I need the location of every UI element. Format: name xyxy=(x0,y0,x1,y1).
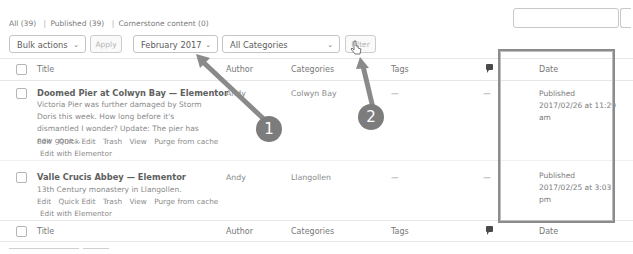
post-categories[interactable]: Llangollen xyxy=(291,173,331,182)
post-tags: — xyxy=(391,89,399,98)
post-title-link[interactable]: Doomed Pier at Colwyn Bay — Elementor xyxy=(37,88,228,98)
apply-button[interactable]: Apply xyxy=(90,35,122,53)
purge-cache-link[interactable]: Purge from cache xyxy=(154,197,218,206)
month-filter-select[interactable]: February 2017 ⌄ xyxy=(133,35,218,53)
post-comments: — xyxy=(483,89,491,98)
comment-icon[interactable] xyxy=(486,226,493,232)
row-checkbox[interactable] xyxy=(16,88,27,99)
post-tags: — xyxy=(391,173,399,182)
view-separator: | xyxy=(43,19,46,28)
search-posts-input[interactable] xyxy=(513,8,619,28)
select-all-checkbox[interactable] xyxy=(16,64,27,75)
bulk-actions-select-bottom[interactable] xyxy=(9,248,79,249)
view-link[interactable]: View xyxy=(130,197,147,206)
quick-edit-link[interactable]: Quick Edit xyxy=(58,197,95,206)
column-title[interactable]: Title xyxy=(37,65,54,74)
comment-icon[interactable] xyxy=(486,64,493,70)
post-categories[interactable]: Colwyn Bay xyxy=(291,89,337,98)
column-author: Author xyxy=(226,65,253,74)
edit-with-elementor-link[interactable]: Edit with Elementor xyxy=(40,149,112,158)
row-checkbox[interactable] xyxy=(16,172,27,183)
bulk-actions-label: Bulk actions xyxy=(17,40,68,50)
date-column-highlight xyxy=(498,49,615,223)
view-all-link[interactable]: All (39) xyxy=(9,19,36,28)
chevron-down-icon: ⌄ xyxy=(73,36,79,54)
column-title-footer[interactable]: Title xyxy=(37,227,54,236)
table-bottom-border xyxy=(0,241,633,242)
month-filter-label: February 2017 xyxy=(141,40,202,50)
row-actions: Edit Quick Edit Trash View Purge from ca… xyxy=(37,136,227,159)
column-date-footer[interactable]: Date xyxy=(539,227,558,236)
step-badge-1: 1 xyxy=(256,116,282,142)
arrow-to-filter-button xyxy=(363,66,373,108)
column-tags: Tags xyxy=(391,65,409,74)
search-posts-button[interactable] xyxy=(620,8,631,28)
arrowhead-1 xyxy=(196,54,210,68)
select-all-checkbox-footer[interactable] xyxy=(16,226,27,237)
step-badge-2: 2 xyxy=(358,104,384,130)
post-status-views: All (39) | Published (39) | Cornerstone … xyxy=(9,19,211,28)
post-author[interactable]: Andy xyxy=(226,173,246,182)
edit-link[interactable]: Edit xyxy=(37,137,51,146)
view-link[interactable]: View xyxy=(130,137,147,146)
post-excerpt: 13th Century monastery in Llangollen. xyxy=(37,184,215,196)
column-categories: Categories xyxy=(291,65,334,74)
view-cornerstone-link[interactable]: Cornerstone content (0) xyxy=(119,19,209,28)
category-filter-label: All Categories xyxy=(230,40,288,50)
chevron-down-icon: ⌄ xyxy=(327,36,333,54)
chevron-down-icon: ⌄ xyxy=(205,36,211,54)
column-tags-footer: Tags xyxy=(391,227,409,236)
column-categories-footer: Categories xyxy=(291,227,334,236)
view-separator: | xyxy=(112,19,115,28)
trash-link[interactable]: Trash xyxy=(103,137,122,146)
bulk-actions-select[interactable]: Bulk actions ⌄ xyxy=(9,35,86,53)
edit-link[interactable]: Edit xyxy=(37,197,51,206)
apply-button-bottom[interactable] xyxy=(83,248,109,249)
edit-with-elementor-link[interactable]: Edit with Elementor xyxy=(40,209,112,218)
category-filter-select[interactable]: All Categories ⌄ xyxy=(222,35,340,53)
row-actions: Edit Quick Edit Trash View Purge from ca… xyxy=(37,196,227,219)
trash-link[interactable]: Trash xyxy=(103,197,122,206)
purge-cache-link[interactable]: Purge from cache xyxy=(154,137,218,146)
post-author[interactable]: Andy xyxy=(226,89,246,98)
view-published-link[interactable]: Published (39) xyxy=(50,19,104,28)
post-title-link[interactable]: Valle Crucis Abbey — Elementor xyxy=(37,172,186,182)
filter-button[interactable]: Filter xyxy=(345,35,376,53)
column-author-footer: Author xyxy=(226,227,253,236)
quick-edit-link[interactable]: Quick Edit xyxy=(58,137,95,146)
post-comments: — xyxy=(483,173,491,182)
